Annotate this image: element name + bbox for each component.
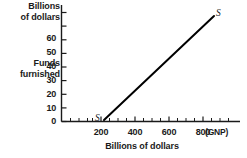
supply-curve-line [104,16,214,120]
y-axis-ticks [62,13,67,122]
supply-of-funds-chart: Billions of dollars Funds furnished 0 10… [0,0,247,158]
plot-area [0,0,247,158]
